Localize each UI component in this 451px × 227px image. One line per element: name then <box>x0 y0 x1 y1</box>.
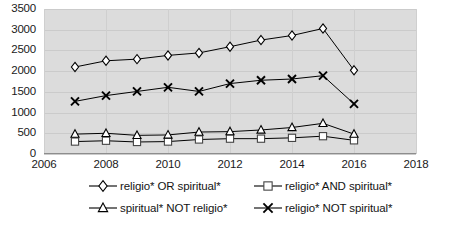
x-axis-tick-label: 2018 <box>394 158 438 170</box>
y-axis-tick-label: 2000 <box>0 65 36 76</box>
data-series <box>71 72 358 108</box>
legend-item[interactable]: religio* AND spiritual* <box>253 176 392 196</box>
data-point-marker <box>319 119 327 127</box>
gridline-vertical <box>416 9 417 154</box>
series-line <box>75 76 354 104</box>
y-axis-tick-label: 1500 <box>0 86 36 97</box>
data-point-marker <box>71 130 79 138</box>
y-axis-tick-label: 2500 <box>0 44 36 55</box>
legend-label: religio* AND spiritual* <box>285 180 392 192</box>
y-axis-tick-label: 1000 <box>0 107 36 118</box>
x-axis-tick-label: 2012 <box>208 158 252 170</box>
y-axis-tick-label: 3000 <box>0 24 36 35</box>
data-point-marker <box>226 135 233 142</box>
data-point-marker <box>164 138 171 145</box>
x-axis-tick-label: 2006 <box>22 158 66 170</box>
data-point-marker <box>257 35 264 44</box>
data-point-marker <box>350 100 358 108</box>
x-axis-tick-label: 2016 <box>332 158 376 170</box>
data-series <box>71 133 357 146</box>
data-point-marker <box>102 56 109 65</box>
data-point-marker <box>164 51 171 60</box>
data-point-marker <box>133 138 140 145</box>
data-point-marker <box>133 55 140 64</box>
legend-label: religio* NOT spiritual* <box>285 202 392 214</box>
legend-item[interactable]: religio* NOT spiritual* <box>253 198 392 218</box>
y-axis-tick-label: 500 <box>0 127 36 138</box>
data-series <box>71 119 358 139</box>
cross-marker-icon <box>253 199 283 217</box>
series-line <box>75 28 354 70</box>
data-series <box>71 24 357 75</box>
data-point-marker <box>195 48 202 57</box>
data-point-marker <box>71 97 79 105</box>
data-point-marker <box>71 138 78 145</box>
data-point-marker <box>288 134 295 141</box>
x-axis-tick-label: 2010 <box>146 158 190 170</box>
data-point-marker <box>102 137 109 144</box>
data-point-marker <box>257 135 264 142</box>
square-marker-icon <box>253 177 283 195</box>
data-point-marker <box>195 136 202 143</box>
series-line <box>75 136 354 142</box>
legend-label: spiritual* NOT religio* <box>120 202 227 214</box>
data-point-marker <box>102 129 110 137</box>
data-point-marker <box>71 62 78 71</box>
line-chart: 3500300025002000150010005000 20062008201… <box>0 0 451 227</box>
legend-label: religio* OR spiritual* <box>120 180 221 192</box>
diamond-marker-icon <box>88 177 118 195</box>
data-point-marker <box>226 42 233 51</box>
x-axis-tick-label: 2008 <box>84 158 128 170</box>
data-point-marker <box>288 31 295 40</box>
triangle-marker-icon <box>88 199 118 217</box>
gridline-horizontal <box>44 154 416 155</box>
data-point-marker <box>319 133 326 140</box>
x-axis-tick-label: 2014 <box>270 158 314 170</box>
data-series-layer <box>44 9 416 154</box>
series-line <box>75 123 354 135</box>
chart-legend: religio* OR spiritual*religio* AND spiri… <box>0 176 451 224</box>
legend-item[interactable]: religio* OR spiritual* <box>88 176 221 196</box>
y-axis-tick-label: 3500 <box>0 3 36 14</box>
data-point-marker <box>195 128 203 136</box>
legend-item[interactable]: spiritual* NOT religio* <box>88 198 227 218</box>
